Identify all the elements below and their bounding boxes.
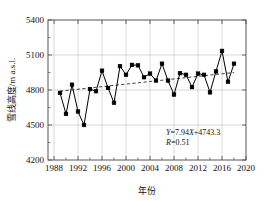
data-point-marker: [148, 72, 152, 76]
data-point-marker: [214, 69, 218, 73]
data-point-marker: [64, 112, 68, 116]
r-value: =0.51: [171, 138, 190, 147]
trend-r-text: R=0.51: [165, 138, 189, 147]
data-point-marker: [100, 69, 104, 73]
data-point-marker: [226, 80, 230, 84]
y-tick-label: 5100: [26, 50, 45, 60]
y-tick-label: 5400: [26, 15, 45, 25]
snowline-altitude-line-chart: 198819921996200020042008201220162020 420…: [0, 0, 268, 201]
data-point-marker: [106, 86, 110, 90]
x-tick-label: 2020: [237, 163, 256, 173]
data-point-marker: [94, 89, 98, 93]
data-point-marker: [70, 83, 74, 87]
y-tick-label: 4500: [26, 120, 45, 130]
data-point-marker: [130, 63, 134, 67]
data-point-marker: [118, 64, 122, 68]
data-point-marker: [124, 73, 128, 77]
data-point-marker: [58, 91, 62, 95]
x-tick-label: 2016: [213, 163, 232, 173]
data-point-marker: [88, 87, 92, 91]
data-point-marker: [202, 73, 206, 77]
data-point-marker: [76, 110, 80, 114]
data-point-marker: [82, 123, 86, 127]
x-tick-label: 2012: [189, 163, 207, 173]
data-point-marker: [190, 85, 194, 89]
y-axis-tick-labels: 42004500480051005400: [26, 15, 45, 165]
x-tick-label: 2004: [141, 163, 160, 173]
x-tick-label: 1988: [45, 163, 64, 173]
y-axis-title: 雪线高度/m a.s.l.: [6, 58, 17, 123]
data-point-marker: [154, 79, 158, 83]
x-tick-label: 2008: [165, 163, 184, 173]
chart-figure: 198819921996200020042008201220162020 420…: [0, 0, 268, 201]
x-tick-label: 2000: [117, 163, 136, 173]
x-tick-label: 1996: [93, 163, 112, 173]
x-axis-title: 年份: [138, 185, 156, 196]
data-point-marker: [160, 62, 164, 66]
data-point-marker: [172, 93, 176, 97]
y-tick-label: 4800: [26, 85, 45, 95]
data-point-marker: [178, 71, 182, 75]
data-point-marker: [142, 75, 146, 79]
equation-intercept: +4743.3: [194, 128, 221, 137]
data-point-marker: [196, 72, 200, 76]
data-point-marker: [232, 62, 236, 66]
data-point-marker: [166, 79, 170, 83]
data-point-marker: [184, 73, 188, 77]
data-point-marker: [208, 90, 212, 94]
data-point-marker: [220, 49, 224, 53]
data-point-marker: [112, 101, 116, 105]
equation-slope: =7.94: [170, 128, 189, 137]
x-tick-label: 1992: [69, 163, 87, 173]
x-axis-tick-labels: 198819921996200020042008201220162020: [45, 163, 256, 173]
y-tick-label: 4200: [26, 155, 45, 165]
data-point-marker: [136, 63, 140, 67]
trend-equation-text: Y=7.94X+4743.3: [166, 128, 220, 137]
